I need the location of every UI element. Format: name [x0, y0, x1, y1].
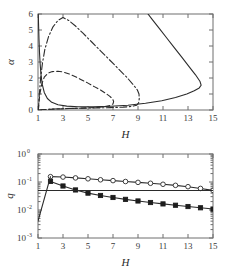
x-tick-label: 15	[209, 113, 219, 123]
x-tick-label: 13	[184, 113, 194, 123]
y-tick-label: 10-3	[17, 232, 32, 244]
top-chart-svg: 135791113150123456Hα	[0, 0, 229, 140]
x-axis-label: H	[121, 128, 131, 140]
data-marker-filled-square	[86, 191, 90, 195]
data-marker-filled-square	[111, 195, 115, 199]
bottom-plot-frame	[38, 154, 213, 238]
y-tick-label: 6	[29, 9, 34, 19]
x-tick-label: 15	[209, 241, 219, 251]
data-marker-open-circle	[173, 183, 178, 188]
x-tick-label: 11	[159, 113, 168, 123]
top-plot-frame	[38, 14, 213, 110]
x-tick-label: 1	[36, 113, 41, 123]
y-tick-label-exponent: 0	[27, 148, 30, 154]
x-tick-label: 9	[136, 241, 141, 251]
x-tick-label: 5	[86, 113, 91, 123]
y-tick-label-mantissa: 10	[17, 233, 27, 243]
data-marker-filled-square	[61, 184, 65, 188]
data-marker-filled-square	[198, 206, 202, 210]
y-tick-label: 3	[29, 57, 34, 67]
x-axis-label: H	[121, 256, 131, 268]
data-marker-filled-square	[161, 202, 165, 206]
data-marker-open-circle	[98, 177, 103, 182]
data-marker-filled-square	[98, 193, 102, 197]
chart-panel-top: 135791113150123456Hα	[0, 0, 229, 140]
y-tick-label-mantissa: 10	[17, 149, 27, 159]
y-tick-label: 0	[29, 105, 34, 115]
data-marker-filled-square	[148, 200, 152, 204]
x-tick-label: 7	[111, 241, 116, 251]
chart-panel-bottom: 1357911131510010-110-210-3Hq	[0, 140, 229, 279]
y-tick-label: 10-1	[17, 176, 32, 188]
x-tick-label: 3	[61, 113, 66, 123]
y-tick-label-mantissa: 10	[17, 177, 27, 187]
data-marker-open-circle	[86, 177, 91, 182]
curve-solid-outer-boundary	[38, 14, 201, 107]
x-tick-label: 9	[136, 113, 141, 123]
data-marker-open-circle	[161, 182, 166, 187]
x-tick-label: 13	[184, 241, 194, 251]
curve-dashdot-middle-boundary	[38, 18, 139, 110]
curve-dashed-inner-boundary	[38, 71, 113, 110]
data-marker-open-circle	[148, 181, 153, 186]
data-marker-filled-square	[123, 197, 127, 201]
x-tick-label: 11	[159, 241, 168, 251]
figure-container: 135791113150123456Hα 1357911131510010-11…	[0, 0, 229, 279]
data-marker-open-circle	[73, 176, 78, 181]
data-marker-open-circle	[61, 175, 66, 180]
y-axis-label: q	[3, 193, 15, 199]
x-tick-label: 3	[61, 241, 66, 251]
y-tick-label: 2	[29, 73, 34, 83]
x-tick-label: 1	[36, 241, 41, 251]
data-marker-filled-square	[136, 199, 140, 203]
x-tick-label: 5	[86, 241, 91, 251]
y-axis-label: α	[4, 59, 16, 65]
bottom-chart-svg: 1357911131510010-110-210-3Hq	[0, 140, 229, 279]
data-marker-open-circle	[186, 184, 191, 189]
y-tick-label: 100	[17, 148, 30, 160]
y-tick-label: 1	[29, 89, 34, 99]
y-tick-label-exponent: -3	[27, 232, 32, 238]
y-tick-label-mantissa: 10	[17, 205, 27, 215]
data-marker-open-circle	[136, 180, 141, 185]
y-tick-label-exponent: -2	[27, 204, 32, 210]
data-marker-open-circle	[111, 178, 116, 183]
data-marker-filled-square	[186, 204, 190, 208]
y-tick-label-exponent: -1	[27, 176, 32, 182]
x-tick-label: 7	[111, 113, 116, 123]
data-marker-open-circle	[123, 179, 128, 184]
data-marker-filled-square	[173, 203, 177, 207]
data-marker-filled-square	[211, 207, 215, 211]
y-tick-label: 4	[29, 41, 34, 51]
y-tick-label: 5	[29, 25, 34, 35]
y-tick-label: 10-2	[17, 204, 32, 216]
